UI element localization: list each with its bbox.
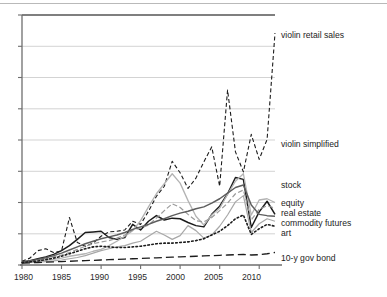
xtick-1990: 1990 — [90, 272, 109, 282]
xtick-1985: 1985 — [52, 272, 71, 282]
series-line-violin-retail-sales — [22, 33, 275, 261]
xtick-2000: 2000 — [166, 272, 185, 282]
legend-label-stock: stock — [281, 181, 301, 190]
figure-page: violin retail sales violin simplified st… — [0, 0, 387, 297]
legend-label-real-estate: real estate — [281, 209, 321, 218]
xtick-2010: 2010 — [242, 272, 261, 282]
series-group — [22, 33, 275, 263]
legend-label-art: art — [281, 229, 291, 238]
legend-label-violin-retail-sales: violin retail sales — [281, 31, 344, 40]
xtick-1980: 1980 — [14, 272, 33, 282]
legend-label-commodity-futures: commodity futures — [281, 219, 351, 228]
legend-label-10-y-gov-bond: 10-y gov bond — [281, 254, 335, 263]
legend-leaders — [275, 31, 279, 255]
legend-label-equity: equity — [281, 199, 304, 208]
series-line-violin-simplified — [22, 178, 275, 262]
legend-label-violin-simplified: violin simplified — [281, 140, 339, 149]
series-line-real-estate — [22, 185, 275, 262]
xtick-1995: 1995 — [128, 272, 147, 282]
xtick-2005: 2005 — [204, 272, 223, 282]
